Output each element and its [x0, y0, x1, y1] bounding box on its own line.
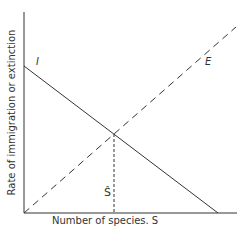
extinction-curve — [24, 27, 236, 213]
x-axis-label: Number of species. S — [52, 215, 158, 226]
immigration-label: I — [36, 56, 39, 67]
equilibrium-label: Ŝ — [104, 186, 111, 199]
immigration-curve — [24, 66, 218, 213]
diagram-canvas — [0, 0, 245, 238]
extinction-label: E — [205, 56, 211, 67]
y-axis-label: Rate of immigration or extinction — [6, 18, 17, 208]
